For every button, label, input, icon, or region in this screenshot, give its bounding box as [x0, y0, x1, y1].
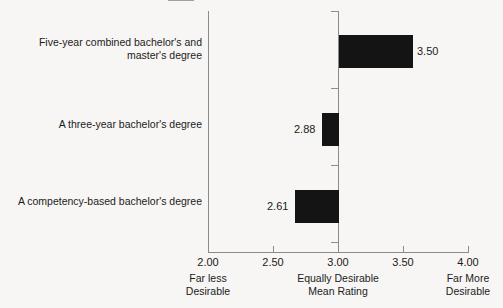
bottom-axis-line: [208, 252, 469, 253]
anchor-line1: Far More: [413, 272, 503, 285]
x-tick-label-2-00: 2.00: [173, 256, 243, 269]
baseline-tick-2: [331, 165, 338, 166]
anchor-line1: Far less: [153, 272, 263, 285]
anchor-line1: Equally Desirable: [283, 272, 393, 285]
anchor-far-less-desirable: Far less Desirable: [153, 272, 263, 298]
bar-value-three-year: 2.88: [294, 124, 315, 135]
x-tick-label-2-50: 2.50: [238, 256, 308, 269]
bar-competency-based: [295, 190, 339, 223]
bar-value-five-year: 3.50: [417, 46, 438, 57]
left-axis-line: [208, 11, 209, 253]
x-tick-label-4-00: 4.00: [433, 256, 503, 269]
x-axis-title: Mean Rating: [283, 285, 393, 298]
anchor-line2: Desirable: [413, 285, 503, 298]
baseline-tick-3: [331, 242, 338, 243]
x-tick-4-00: [468, 246, 469, 252]
bar-value-competency-based: 2.61: [267, 201, 288, 212]
baseline-tick-1: [331, 88, 338, 89]
plot-area: 3.50 2.88 2.61 2.00 2.50 3.00 3.50 4.00 …: [0, 0, 503, 308]
anchor-line2: Desirable: [153, 285, 263, 298]
bar-three-year: [322, 113, 339, 146]
x-tick-label-3-00: 3.00: [303, 256, 373, 269]
x-tick-label-3-50: 3.50: [368, 256, 438, 269]
anchor-equally-desirable: Equally Desirable Mean Rating: [283, 272, 393, 298]
anchor-far-more-desirable: Far More Desirable: [413, 272, 503, 298]
bar-five-year: [339, 35, 413, 68]
bar-chart: Five-year combined bachelor's and master…: [0, 0, 503, 308]
x-tick-2-00: [208, 246, 209, 252]
x-tick-3-00: [338, 246, 339, 252]
baseline-tick-top: [331, 11, 338, 12]
x-tick-2-50: [273, 246, 274, 252]
x-tick-3-50: [403, 246, 404, 252]
